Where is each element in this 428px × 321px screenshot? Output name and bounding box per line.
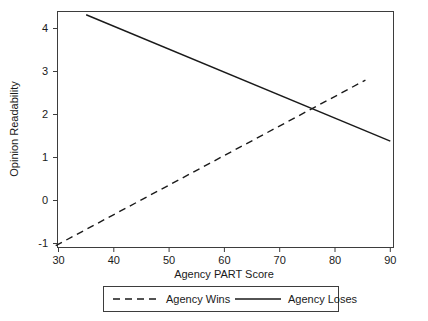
y-tick-label-4: 4 bbox=[42, 22, 48, 34]
x-axis-title: Agency PART Score bbox=[174, 268, 274, 280]
x-tick-label-40: 40 bbox=[108, 254, 120, 266]
x-tick-label-80: 80 bbox=[329, 254, 341, 266]
y-tick-label-0: 0 bbox=[42, 194, 48, 206]
y-tick-label-2: 2 bbox=[42, 108, 48, 120]
legend-label-agency-loses: Agency Loses bbox=[288, 293, 358, 305]
line-chart-svg: 4 3 2 1 0 -1 Opinion Readability 30 40 5… bbox=[0, 0, 428, 321]
x-axis-ticks bbox=[59, 248, 391, 253]
x-tick-label-60: 60 bbox=[218, 254, 230, 266]
series-line-agency-loses bbox=[86, 15, 390, 141]
y-axis-tick-labels: 4 3 2 1 0 -1 bbox=[38, 22, 48, 249]
legend-label-agency-wins: Agency Wins bbox=[166, 293, 231, 305]
plot-frame bbox=[58, 12, 394, 248]
y-tick-label-neg1: -1 bbox=[38, 237, 48, 249]
series-line-agency-wins bbox=[56, 80, 366, 246]
x-tick-label-30: 30 bbox=[52, 254, 64, 266]
y-axis-ticks bbox=[53, 29, 58, 244]
chart-figure: 4 3 2 1 0 -1 Opinion Readability 30 40 5… bbox=[0, 0, 428, 321]
x-tick-label-70: 70 bbox=[274, 254, 286, 266]
y-tick-label-3: 3 bbox=[42, 65, 48, 77]
chart-legend: Agency Wins Agency Loses bbox=[104, 287, 358, 312]
y-tick-label-1: 1 bbox=[42, 151, 48, 163]
x-tick-label-50: 50 bbox=[163, 254, 175, 266]
x-axis-tick-labels: 30 40 50 60 70 80 90 bbox=[52, 254, 396, 266]
x-tick-label-90: 90 bbox=[384, 254, 396, 266]
y-axis-title: Opinion Readability bbox=[8, 81, 20, 177]
